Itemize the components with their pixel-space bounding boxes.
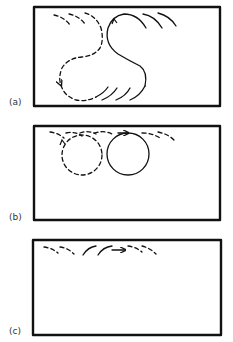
arrow-head: [60, 140, 65, 145]
arc: [96, 87, 108, 97]
arc: [158, 13, 176, 26]
panel-c: [33, 240, 221, 335]
diagram-canvas: [0, 0, 233, 342]
arc: [69, 14, 85, 24]
dashed-loop-bottom: [61, 85, 96, 101]
arc: [54, 15, 70, 25]
solid-s-curve: [107, 14, 146, 86]
solid-circle: [107, 133, 149, 175]
dashed-path: [60, 13, 103, 85]
arc: [116, 88, 130, 100]
arc: [44, 247, 58, 253]
panel-b-label: (b): [9, 212, 22, 222]
arc: [50, 132, 64, 138]
arc: [60, 247, 74, 254]
arc: [158, 132, 174, 140]
panel-a: [34, 7, 220, 106]
arc: [142, 246, 156, 254]
arc: [94, 132, 112, 134]
arc: [102, 88, 117, 100]
arc: [83, 246, 96, 255]
arc: [143, 14, 162, 28]
panel-c-label: (c): [9, 326, 21, 336]
panel-a-label: (a): [9, 97, 22, 107]
panel-a-frame: [34, 7, 220, 106]
panel-c-frame: [33, 240, 221, 335]
arc: [98, 246, 112, 255]
panel-b: [34, 126, 220, 220]
arc: [128, 246, 142, 252]
arc: [142, 133, 160, 138]
arc: [130, 86, 145, 100]
dashed-circle: [62, 135, 102, 175]
